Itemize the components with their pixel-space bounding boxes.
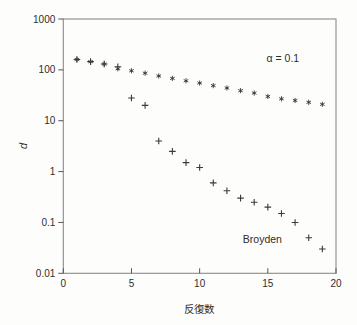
data-point-alpha	[320, 102, 325, 107]
data-point-broyden	[128, 95, 135, 102]
series-alpha-markers	[75, 57, 325, 107]
data-point-broyden	[319, 246, 326, 253]
y-tick-label: 100	[39, 64, 56, 75]
data-point-broyden	[169, 148, 176, 155]
x-axis-ticks: 05101520	[61, 268, 342, 289]
alpha-annotation: α = 0.1	[267, 52, 300, 64]
x-axis-label: 反復数	[184, 303, 215, 315]
data-point-alpha	[143, 71, 148, 76]
data-point-broyden	[265, 204, 272, 211]
data-point-alpha	[170, 76, 175, 81]
x-tick-label: 15	[262, 278, 274, 289]
data-point-broyden	[251, 199, 258, 206]
x-tick-label: 10	[194, 278, 206, 289]
data-point-alpha	[129, 68, 134, 73]
scatter-plot: 05101520 10001001010.10.01 α = 0.1 Broyd…	[0, 0, 357, 325]
data-point-alpha	[225, 85, 230, 90]
data-point-broyden	[278, 210, 285, 217]
x-tick-label: 0	[61, 278, 67, 289]
y-tick-label: 0.01	[36, 268, 56, 279]
data-point-broyden	[237, 195, 244, 202]
x-tick-label: 20	[330, 278, 342, 289]
y-tick-label: 0.1	[41, 217, 55, 228]
data-point-alpha	[156, 73, 161, 78]
data-point-alpha	[238, 88, 243, 93]
y-tick-label: 1000	[33, 14, 56, 25]
data-point-alpha	[293, 98, 298, 103]
data-point-broyden	[101, 61, 108, 68]
data-point-alpha	[279, 96, 284, 101]
y-tick-label: 10	[44, 115, 56, 126]
data-point-broyden	[292, 219, 299, 226]
data-point-broyden	[305, 234, 312, 241]
data-point-broyden	[87, 58, 94, 65]
y-axis-label: d	[17, 142, 29, 149]
data-point-alpha	[197, 80, 202, 85]
y-axis-ticks: 10001001010.10.01	[33, 14, 63, 279]
data-point-alpha	[266, 94, 271, 99]
data-point-broyden	[224, 187, 231, 194]
data-point-broyden	[142, 102, 149, 109]
data-point-broyden	[196, 164, 203, 171]
data-point-broyden	[183, 159, 190, 166]
data-point-alpha	[306, 100, 311, 105]
broyden-annotation: Broyden	[243, 233, 282, 245]
data-point-alpha	[184, 78, 189, 83]
data-point-broyden	[74, 56, 81, 63]
figure: 05101520 10001001010.10.01 α = 0.1 Broyd…	[0, 0, 357, 325]
data-point-broyden	[210, 180, 217, 187]
y-tick-label: 1	[50, 166, 56, 177]
data-point-broyden	[115, 63, 122, 70]
data-point-broyden	[155, 138, 162, 145]
data-point-alpha	[252, 90, 257, 95]
data-point-alpha	[211, 83, 216, 88]
x-tick-label: 5	[129, 278, 135, 289]
